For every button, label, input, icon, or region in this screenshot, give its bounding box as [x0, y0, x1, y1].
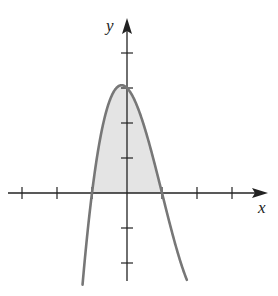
x-axis-label: x — [257, 198, 266, 217]
function-graph: y x — [0, 0, 278, 296]
y-axis-label: y — [104, 16, 114, 35]
